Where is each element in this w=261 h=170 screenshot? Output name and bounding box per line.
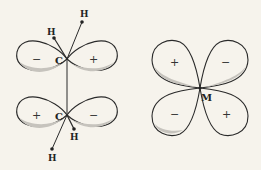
top-h1-label: H	[47, 27, 56, 37]
bottom-h1-label: H	[70, 132, 79, 142]
metal-label: M	[201, 92, 212, 103]
top-h2-dot	[80, 20, 84, 24]
top-right-sign: +	[89, 53, 98, 66]
carbon-pair-structure: H H C − + C + − H H	[17, 9, 118, 163]
top-h2-label: H	[80, 9, 89, 19]
d-sign-bottom-right: +	[222, 108, 231, 121]
d-sign-top-right: −	[221, 56, 230, 69]
metal-d-orbital-structure: M + − − +	[152, 41, 248, 136]
d-sign-top-left: +	[170, 56, 179, 69]
top-carbon-label: C	[55, 55, 63, 66]
bottom-h1-dot	[72, 127, 76, 131]
top-left-sign: −	[32, 53, 41, 66]
bottom-right-sign: −	[89, 109, 98, 122]
d-sign-bottom-left: −	[170, 108, 179, 121]
bottom-h2-dot	[50, 147, 54, 151]
metal-center-dot	[198, 86, 201, 89]
bottom-left-sign: +	[32, 109, 41, 122]
bottom-carbon-label: C	[55, 111, 63, 122]
orbital-diagram: H H C − + C + − H H M + − − +	[0, 0, 261, 170]
bottom-h2-label: H	[48, 153, 57, 163]
